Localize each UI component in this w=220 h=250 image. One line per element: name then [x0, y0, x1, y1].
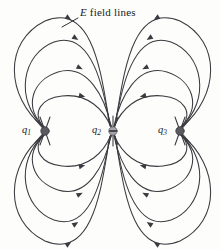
field-annotation-text: field lines [87, 6, 136, 18]
field-arc-group-upper-right [114, 18, 211, 129]
field-arc [114, 133, 187, 166]
field-arrow [76, 190, 84, 197]
field-arc-group-lower-left [14, 133, 111, 244]
field-arrow [76, 64, 84, 71]
field-arrow [145, 220, 153, 228]
field-arrow-group-upper-left [65, 14, 86, 99]
field-arc [114, 96, 187, 129]
field-lines-canvas [0, 0, 220, 250]
field-arrow [145, 34, 153, 42]
field-arrow-group-lower-right [139, 163, 160, 248]
charge-marker-q1 [41, 127, 49, 135]
field-arc-group-lower-right [114, 133, 211, 244]
field-lines-annotation: E field lines [80, 6, 136, 18]
field-arrow [141, 190, 149, 197]
field-arrow [65, 240, 73, 248]
field-symbol-E: E [80, 6, 87, 18]
electric-field-diagram: E field lines q1 q2 q3 [0, 0, 220, 250]
field-arc [115, 18, 211, 127]
field-arrow [152, 14, 160, 22]
field-arrow-group-lower-left [65, 163, 86, 248]
charge-marker-q3 [176, 127, 184, 135]
field-arrow-group-upper-right [139, 14, 160, 99]
field-arrow [141, 64, 149, 71]
charge-label-q1: q1 [22, 124, 31, 137]
charge-subscript: 3 [163, 128, 167, 137]
field-arc [38, 133, 111, 166]
charge-subscript: 1 [27, 128, 31, 137]
charge-label-q2: q2 [92, 124, 101, 137]
field-arrow [152, 240, 160, 248]
field-arc [14, 18, 110, 127]
field-arc-group-upper-left [14, 18, 111, 129]
charge-label-q3: q3 [158, 124, 167, 137]
field-arc [115, 135, 211, 244]
field-arrow [65, 14, 73, 22]
field-arc [14, 135, 110, 244]
field-arrow [72, 220, 80, 228]
field-arrow [72, 34, 80, 42]
charge-subscript: 2 [97, 128, 101, 137]
